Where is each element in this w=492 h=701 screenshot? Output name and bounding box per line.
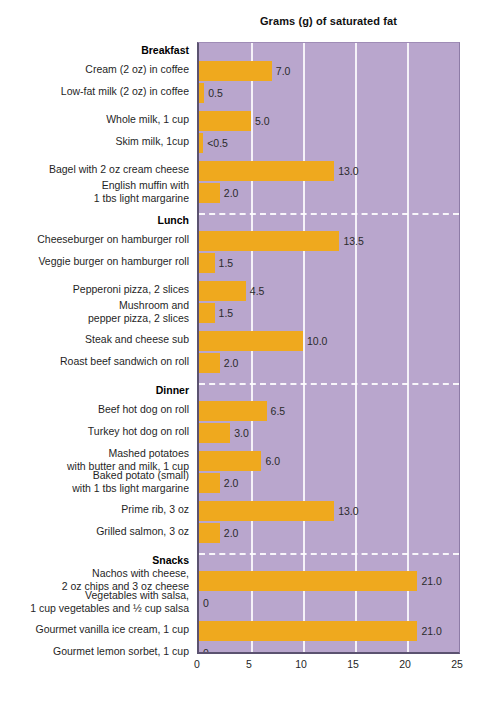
category-label-column: BreakfastCream (2 oz) in coffeeLow-fat m…	[0, 42, 193, 654]
category-label: Bagel with 2 oz cream cheese	[49, 163, 189, 176]
bar	[199, 423, 230, 443]
bar	[199, 353, 220, 373]
x-tick-label-20: 20	[399, 658, 411, 670]
category-label-line: Whole milk, 1 cup	[106, 113, 189, 126]
bar	[199, 451, 261, 471]
bar-value-label: 2.0	[224, 183, 239, 203]
bar	[199, 621, 417, 641]
bar	[199, 133, 203, 153]
category-label-line: Grilled salmon, 3 oz	[96, 525, 189, 538]
category-label-line: Nachos with cheese,	[62, 567, 189, 580]
category-label: Mushroom andpepper pizza, 2 slices	[88, 299, 189, 324]
bar-value-label: 21.0	[421, 621, 441, 641]
category-label-line: Pepperoni pizza, 2 slices	[73, 283, 189, 296]
category-label-line: Bagel with 2 oz cream cheese	[49, 163, 189, 176]
category-label: Steak and cheese sub	[85, 333, 189, 346]
bar	[199, 83, 204, 103]
category-label-line: Baked potato (small)	[72, 469, 189, 482]
category-label: Low-fat milk (2 oz) in coffee	[61, 85, 189, 98]
chart-title: Grams (g) of saturated fat	[197, 15, 460, 27]
gridline-20	[407, 43, 409, 652]
category-label: Pepperoni pizza, 2 slices	[73, 283, 189, 296]
section-label-lunch: Lunch	[158, 214, 190, 227]
bar	[199, 401, 267, 421]
bar-value-label: 2.0	[224, 523, 239, 543]
category-label: Veggie burger on hamburger roll	[38, 255, 189, 268]
bar-value-label: 0	[203, 593, 209, 613]
category-label-line: Roast beef sandwich on roll	[60, 355, 189, 368]
category-label: Gourmet lemon sorbet, 1 cup	[53, 645, 189, 658]
category-label-line: Prime rib, 3 oz	[121, 503, 189, 516]
category-label: English muffin with1 tbs light margarine	[94, 179, 189, 204]
category-label: Turkey hot dog on roll	[88, 425, 189, 438]
category-label: Beef hot dog on roll	[98, 403, 189, 416]
section-divider	[199, 383, 459, 385]
category-label-line: Cheeseburger on hamburger roll	[37, 233, 189, 246]
gridline-10	[303, 43, 305, 652]
plot-area: 7.00.55.0<0.513.02.013.51.54.51.510.02.0…	[197, 42, 460, 654]
category-label-line: Veggie burger on hamburger roll	[38, 255, 189, 268]
x-tick-label-5: 5	[246, 658, 252, 670]
bar-value-label: <0.5	[207, 133, 228, 153]
category-label-line: with 1 tbs light margarine	[72, 482, 189, 495]
x-tick-label-15: 15	[347, 658, 359, 670]
category-label: Cream (2 oz) in coffee	[85, 63, 189, 76]
bar-value-label: 13.0	[338, 161, 358, 181]
category-label-line: Gourmet vanilla ice cream, 1 cup	[36, 623, 189, 636]
x-tick-label-0: 0	[194, 658, 200, 670]
category-label-line: Turkey hot dog on roll	[88, 425, 189, 438]
category-label: Prime rib, 3 oz	[121, 503, 189, 516]
bar	[199, 331, 303, 351]
bar-value-label: 3.0	[234, 423, 249, 443]
bar-value-label: 7.0	[276, 61, 291, 81]
category-label-line: Cream (2 oz) in coffee	[85, 63, 189, 76]
category-label-line: Vegetables with salsa,	[30, 589, 189, 602]
bar-value-label: 0	[203, 643, 209, 654]
bar-value-label: 21.0	[421, 571, 441, 591]
section-label-snacks: Snacks	[152, 554, 189, 567]
bar-value-label: 1.5	[219, 303, 234, 323]
bar-value-label: 13.5	[343, 231, 363, 251]
section-label-breakfast: Breakfast	[141, 44, 189, 57]
category-label-line: Beef hot dog on roll	[98, 403, 189, 416]
bar	[199, 183, 220, 203]
bar-value-label: 13.0	[338, 501, 358, 521]
category-label-line: Gourmet lemon sorbet, 1 cup	[53, 645, 189, 658]
bar	[199, 253, 215, 273]
category-label: Baked potato (small)with 1 tbs light mar…	[72, 469, 189, 494]
category-label-line: Mashed potatoes	[67, 447, 189, 460]
category-label: Gourmet vanilla ice cream, 1 cup	[36, 623, 189, 636]
category-label: Roast beef sandwich on roll	[60, 355, 189, 368]
bar-value-label: 6.0	[265, 451, 280, 471]
category-label-line: Low-fat milk (2 oz) in coffee	[61, 85, 189, 98]
bar	[199, 501, 334, 521]
bar-value-label: 6.5	[271, 401, 286, 421]
bar-value-label: 10.0	[307, 331, 327, 351]
bar-value-label: 1.5	[219, 253, 234, 273]
x-tick-label-10: 10	[295, 658, 307, 670]
saturated-fat-bar-chart: Grams (g) of saturated fat BreakfastCrea…	[0, 0, 492, 701]
category-label-line: Mushroom and	[88, 299, 189, 312]
category-label: Vegetables with salsa,1 cup vegetables a…	[30, 589, 189, 614]
category-label-line: English muffin with	[94, 179, 189, 192]
bar-value-label: 0.5	[208, 83, 223, 103]
x-tick-label-25: 25	[451, 658, 463, 670]
category-label-line: 1 cup vegetables and ½ cup salsa	[30, 602, 189, 615]
category-label-line: Steak and cheese sub	[85, 333, 189, 346]
category-label: Skim milk, 1cup	[115, 135, 189, 148]
section-divider	[199, 553, 459, 555]
bar	[199, 231, 339, 251]
bar	[199, 61, 272, 81]
bar	[199, 303, 215, 323]
category-label: Grilled salmon, 3 oz	[96, 525, 189, 538]
bar	[199, 111, 251, 131]
bar-value-label: 2.0	[224, 353, 239, 373]
bar-value-label: 4.5	[250, 281, 265, 301]
bar-value-label: 2.0	[224, 473, 239, 493]
x-axis: 0510152025	[197, 658, 460, 678]
category-label: Cheeseburger on hamburger roll	[37, 233, 189, 246]
bar-value-label: 5.0	[255, 111, 270, 131]
category-label-line: pepper pizza, 2 slices	[88, 312, 189, 325]
category-label-line: Skim milk, 1cup	[115, 135, 189, 148]
bar	[199, 473, 220, 493]
